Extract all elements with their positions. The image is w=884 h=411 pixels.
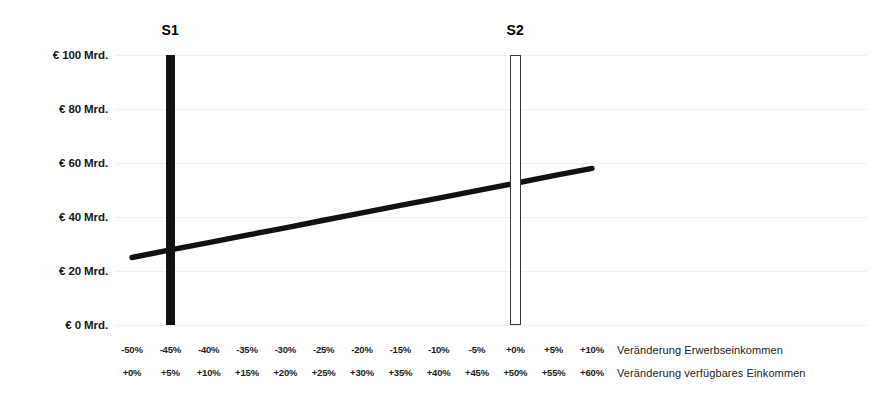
y-axis-tick-label: € 100 Mrd.	[53, 49, 108, 61]
x-axis-tick-label: +25%	[312, 367, 336, 378]
x-axis-tick-label: +55%	[542, 367, 566, 378]
gridline	[115, 163, 867, 164]
gridline	[115, 217, 867, 218]
x-axis-tick-label: -10%	[428, 344, 449, 355]
y-axis-tick-label: € 0 Mrd.	[65, 319, 108, 331]
x-axis-primary-row: -50%-45%-40%-35%-30%-25%-20%-15%-10%-5%+…	[0, 344, 884, 360]
x-axis-tick-label: +45%	[465, 367, 489, 378]
x-axis-secondary-row: +0%+5%+10%+15%+20%+25%+30%+35%+40%+45%+5…	[0, 367, 884, 383]
x-axis-tick-label: +40%	[427, 367, 451, 378]
x-axis-tick-label: -25%	[313, 344, 334, 355]
gridline	[115, 55, 867, 56]
x-axis-tick-label: -15%	[390, 344, 411, 355]
x-axis-caption: Veränderung Erwerbseinkommen	[617, 344, 783, 356]
x-axis-tick-label: -40%	[198, 344, 219, 355]
chart-canvas: € 100 Mrd.€ 80 Mrd.€ 60 Mrd.€ 40 Mrd.€ 2…	[0, 0, 884, 411]
x-axis-tick-label: -30%	[275, 344, 296, 355]
gridline	[115, 325, 867, 326]
x-axis-tick-label: +15%	[235, 367, 259, 378]
x-axis-tick-label: -5%	[469, 344, 485, 355]
x-axis-tick-label: +60%	[580, 367, 604, 378]
x-axis-caption: Veränderung verfügbares Einkommen	[617, 367, 806, 379]
x-axis-tick-label: +35%	[388, 367, 412, 378]
x-axis-tick-label: -20%	[351, 344, 372, 355]
scenario-label-s1: S1	[162, 22, 180, 38]
x-axis-tick-label: -35%	[236, 344, 257, 355]
x-axis-tick-label: +0%	[123, 367, 142, 378]
x-axis-tick-label: +20%	[273, 367, 297, 378]
x-axis-tick-label: +5%	[161, 367, 180, 378]
x-axis-tick-label: +10%	[197, 367, 221, 378]
gridline	[115, 109, 867, 110]
trend-line	[132, 168, 592, 257]
x-axis-tick-label: +50%	[503, 367, 527, 378]
y-axis-tick-label: € 80 Mrd.	[59, 103, 108, 115]
gridline	[115, 271, 867, 272]
x-axis-tick-label: +5%	[544, 344, 563, 355]
x-axis-tick-label: -45%	[160, 344, 181, 355]
x-axis-tick-label: +10%	[580, 344, 604, 355]
x-axis-tick-label: +30%	[350, 367, 374, 378]
y-axis-tick-label: € 60 Mrd.	[59, 157, 108, 169]
x-axis-tick-label: +0%	[506, 344, 525, 355]
scenario-bar-s1[interactable]	[166, 55, 175, 325]
scenario-label-s2: S2	[507, 22, 525, 38]
y-axis-tick-label: € 40 Mrd.	[59, 211, 108, 223]
x-axis-tick-label: -50%	[121, 344, 142, 355]
y-axis-tick-label: € 20 Mrd.	[59, 265, 108, 277]
scenario-bar-s2[interactable]	[510, 55, 521, 325]
